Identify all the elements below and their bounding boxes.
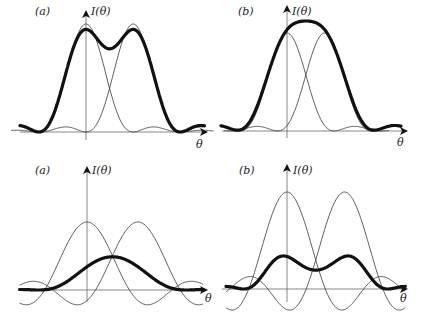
x-axis-label: θ bbox=[400, 292, 407, 305]
curve-sum bbox=[20, 29, 205, 132]
panel-top-a: (a) I(θ) θ bbox=[11, 5, 214, 151]
panel-label: (a) bbox=[35, 164, 50, 177]
x-axis-label: θ bbox=[397, 136, 404, 149]
diffraction-figure: (a) I(θ) θ (b) I(θ) θ (a) I(θ) θ (b) I(θ… bbox=[0, 0, 423, 322]
y-axis-label: I(θ) bbox=[292, 164, 313, 177]
y-axis-label: I(θ) bbox=[291, 5, 312, 18]
curve-source-2 bbox=[20, 222, 204, 305]
x-axis-label: θ bbox=[196, 138, 203, 151]
curve-source-1 bbox=[226, 192, 405, 310]
y-axis-label: I(θ) bbox=[90, 5, 111, 18]
panel-top-b: (b) I(θ) θ bbox=[221, 5, 406, 149]
curve-source-1 bbox=[20, 222, 204, 305]
curve-source-2 bbox=[224, 33, 395, 131]
y-axis-label: I(θ) bbox=[91, 164, 112, 177]
x-axis-label: θ bbox=[205, 292, 212, 305]
panel-label: (b) bbox=[238, 5, 254, 18]
panel-label: (b) bbox=[239, 164, 255, 177]
curve-sum bbox=[20, 257, 204, 290]
curve-source-1 bbox=[224, 33, 389, 131]
panel-bottom-b: (b) I(θ) θ bbox=[222, 164, 407, 310]
panel-label: (a) bbox=[35, 5, 50, 18]
curve-source-2 bbox=[226, 192, 405, 310]
panel-bottom-a: (a) I(θ) θ bbox=[20, 164, 213, 305]
curve-sum bbox=[221, 21, 401, 130]
